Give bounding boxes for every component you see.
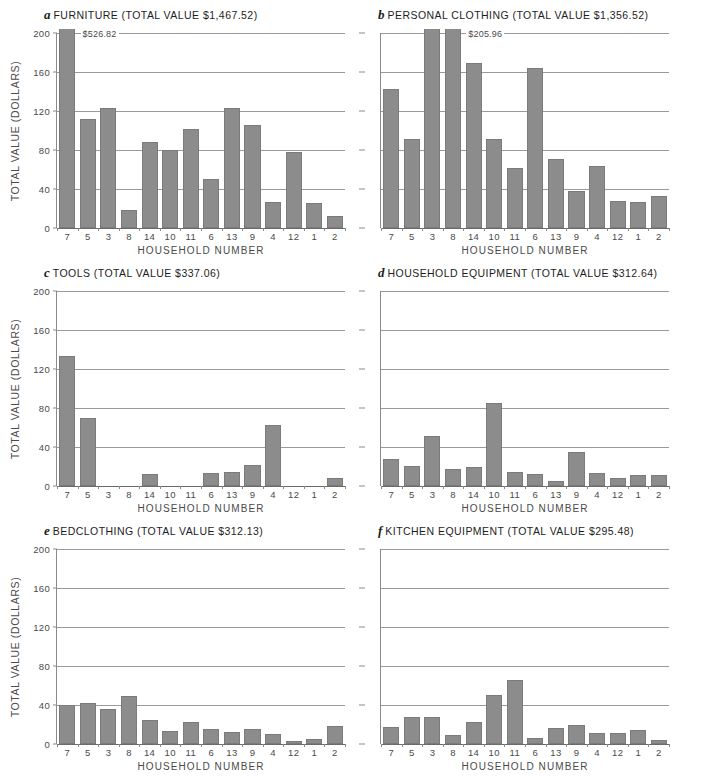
bar-slot-household-5: [78, 291, 99, 486]
y-tick-label-160: 160: [33, 325, 50, 336]
x-tick-label-household-4: 4: [587, 228, 608, 242]
x-tick-mark-5: [98, 228, 99, 231]
x-tick-label-household-1: 1: [628, 744, 649, 758]
bar-household-4: [265, 425, 281, 486]
bar-slot-household-6: [201, 33, 222, 228]
bar-household-14: [142, 720, 158, 744]
bar-household-13: [224, 732, 240, 744]
panel-e: eBEDCLOTHING (TOTAL VALUE $312.13)TOTAL …: [0, 516, 352, 776]
x-tick-mark-1: [648, 486, 649, 489]
x-tick-label-household-6: 6: [525, 228, 546, 242]
x-tick-mark-13: [566, 486, 567, 489]
bar-slot-household-9: [242, 33, 263, 228]
panel-b-x-axis-title: HOUSEHOLD NUMBER: [381, 245, 669, 256]
x-tick-label-household-1: 1: [304, 486, 325, 500]
x-tick-mark-9: [263, 744, 264, 747]
y-tick-mark-200: [359, 33, 365, 34]
x-tick-label-household-6: 6: [201, 486, 222, 500]
x-tick-mark-12: [304, 744, 305, 747]
x-tick-label-household-8: 8: [119, 228, 140, 242]
x-tick-mark-6: [546, 228, 547, 231]
x-tick-mark-5: [422, 744, 423, 747]
x-tick-label-household-11: 11: [180, 486, 201, 500]
x-tick-label-household-3: 3: [98, 486, 119, 500]
bar-slot-household-4: [263, 549, 284, 744]
y-tick-mark-160: [359, 588, 365, 589]
x-tick-label-household-6: 6: [201, 744, 222, 758]
x-tick-label-household-2: 2: [649, 486, 670, 500]
x-tick-label-household-13: 13: [222, 486, 243, 500]
bar-household-1: [630, 202, 646, 228]
bar-household-9: [244, 125, 260, 228]
bar-household-5: [80, 418, 96, 486]
bar-household-8: [121, 696, 137, 744]
bar-household-9: [568, 191, 584, 228]
bar-slot-household-6: [525, 291, 546, 486]
x-tick-mark-1: [324, 744, 325, 747]
bar-household-13: [548, 159, 564, 228]
y-tick-mark-120: [359, 111, 365, 112]
bar-slot-household-3: [422, 291, 443, 486]
panel-e-bars: [57, 549, 345, 744]
bar-slot-household-11: [180, 291, 201, 486]
panel-f-title: fKITCHEN EQUIPMENT (TOTAL VALUE $295.48): [378, 523, 634, 539]
y-tick-label-80: 80: [39, 661, 50, 672]
x-tick-label-household-8: 8: [119, 744, 140, 758]
bar-slot-household-1: [628, 549, 649, 744]
bar-slot-household-8: [443, 549, 464, 744]
bar-slot-household-5: [78, 549, 99, 744]
bar-household-6: [527, 68, 543, 228]
x-tick-mark-5: [422, 486, 423, 489]
x-tick-label-household-6: 6: [525, 486, 546, 500]
bar-household-10: [162, 731, 178, 744]
x-tick-mark-7: [402, 228, 403, 231]
x-tick-label-household-11: 11: [180, 744, 201, 758]
y-tick-mark-200: [359, 549, 365, 550]
x-tick-mark-9: [263, 486, 264, 489]
x-tick-mark-8: [463, 744, 464, 747]
x-tick-mark-4: [607, 486, 608, 489]
bar-household-5: [404, 717, 420, 744]
bar-slot-household-1: [628, 33, 649, 228]
panel-c-x-axis-title: HOUSEHOLD NUMBER: [57, 503, 345, 514]
bar-household-7: [59, 356, 75, 486]
bar-slot-household-8: [443, 33, 464, 228]
bar-household-7: [383, 459, 399, 486]
panel-b: bPERSONAL CLOTHING (TOTAL VALUE $1,356.5…: [352, 0, 704, 260]
bar-slot-household-9: [242, 291, 263, 486]
multi-panel-bar-chart-figure: aFURNITURE (TOTAL VALUE $1,467.52)TOTAL …: [0, 0, 704, 779]
bar-household-4: [265, 202, 281, 228]
x-tick-mark-3: [443, 228, 444, 231]
panel-a-title: aFURNITURE (TOTAL VALUE $1,467.52): [44, 7, 258, 23]
bar-household-8: [445, 29, 461, 228]
x-tick-mark-10: [504, 228, 505, 231]
x-tick-label-household-7: 7: [57, 228, 78, 242]
x-tick-label-household-2: 2: [649, 744, 670, 758]
bar-slot-household-2: [649, 291, 670, 486]
x-tick-label-household-4: 4: [587, 744, 608, 758]
y-tick-label-40: 40: [39, 184, 50, 195]
x-tick-mark-3: [443, 486, 444, 489]
x-tick-mark-10: [180, 228, 181, 231]
bar-slot-household-8: [443, 291, 464, 486]
y-tick-label-80: 80: [39, 403, 50, 414]
x-tick-mark-6: [546, 744, 547, 747]
bar-slot-household-8: [119, 291, 140, 486]
bar-household-13: [224, 108, 240, 228]
y-tick-label-80: 80: [39, 145, 50, 156]
bar-slot-household-8: [119, 549, 140, 744]
x-tick-mark-13: [242, 744, 243, 747]
bar-household-11: [507, 168, 523, 228]
x-tick-mark-6: [222, 744, 223, 747]
x-tick-label-household-10: 10: [484, 744, 505, 758]
bar-household-13: [548, 728, 564, 744]
x-tick-mark-14: [484, 486, 485, 489]
x-tick-mark-13: [242, 228, 243, 231]
bar-slot-household-13: [546, 33, 567, 228]
bar-household-3: [100, 709, 116, 744]
x-tick-mark-7: [402, 486, 403, 489]
bar-slot-household-2: [325, 291, 346, 486]
bar-household-7: [59, 705, 75, 744]
bar-slot-household-13: [222, 33, 243, 228]
x-tick-label-household-2: 2: [649, 228, 670, 242]
